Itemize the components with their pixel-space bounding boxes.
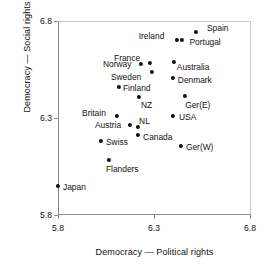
data-point-australia xyxy=(172,60,176,64)
data-point-usa xyxy=(171,114,175,118)
data-point-spain xyxy=(194,30,198,34)
data-point-britain xyxy=(115,114,119,118)
data-point-flanders xyxy=(107,158,111,162)
data-label-flanders: Flanders xyxy=(106,165,139,174)
data-label-nz: NZ xyxy=(141,101,152,110)
data-label-norway: Norway xyxy=(103,60,131,69)
data-label-ireland: Ireland xyxy=(139,32,165,41)
data-point-nl xyxy=(136,125,140,129)
data-label-usa: USA xyxy=(179,113,196,122)
scatter-plot-figure: 6.8 6.3 5.8 5.8 6.3 6.8 Democracy — Soci… xyxy=(0,0,270,272)
data-label-swiss: Swiss xyxy=(106,138,128,147)
data-point-japan xyxy=(56,184,60,188)
data-label-australia: Australia xyxy=(177,63,210,72)
data-label-canada: Canada xyxy=(143,133,172,142)
data-label-finland: Finland xyxy=(123,84,150,93)
data-label-sweden: Sweden xyxy=(111,73,141,82)
data-point-gerw xyxy=(179,144,183,148)
data-label-britain: Britain xyxy=(82,109,106,118)
data-label-austria: Austria xyxy=(95,121,121,130)
data-label-spain: Spain xyxy=(207,24,228,33)
data-point-ireland xyxy=(175,38,179,42)
data-points-layer: SpainPortugalIrelandAustraliaFranceNorwa… xyxy=(0,0,270,272)
data-label-nl: NL xyxy=(139,117,150,126)
data-point-finland xyxy=(117,85,121,89)
data-label-gerw: Ger(W) xyxy=(186,143,213,152)
data-point-swiss xyxy=(99,139,103,143)
data-label-gere: Ger(E) xyxy=(185,101,210,110)
data-point-france xyxy=(148,61,152,65)
data-point-norway xyxy=(139,62,143,66)
data-point-portugal xyxy=(179,38,183,42)
data-label-portugal: Portugal xyxy=(190,38,221,47)
data-point-austria xyxy=(128,123,132,127)
data-label-japan: Japan xyxy=(63,183,86,192)
data-point-canada xyxy=(136,133,140,137)
data-point-denmark xyxy=(171,76,175,80)
data-point-gere xyxy=(183,94,187,98)
data-label-denmark: Denmark xyxy=(178,76,212,85)
data-point-nz xyxy=(137,95,141,99)
data-point-sweden xyxy=(150,70,154,74)
